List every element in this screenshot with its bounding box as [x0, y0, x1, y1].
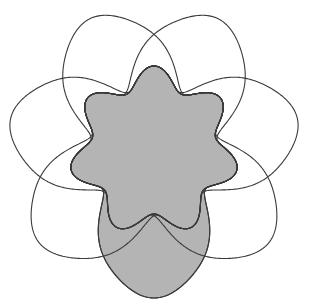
venn-curves [10, 15, 298, 298]
venn-diagram [0, 0, 309, 304]
shaded-set-curve [71, 66, 237, 298]
